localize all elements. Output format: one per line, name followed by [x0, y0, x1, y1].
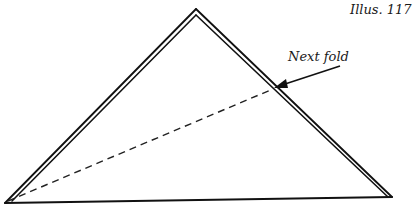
- folding-illustration: Illus. 117 Next fold: [0, 0, 414, 205]
- bottom-edge: [5, 197, 392, 203]
- right-edge-inner: [196, 15, 388, 197]
- illustration-caption: Illus. 117: [349, 2, 412, 17]
- left-edge-inner: [12, 15, 196, 201]
- fold-line-dashed: [8, 89, 273, 201]
- right-edge-outer: [196, 9, 392, 197]
- callout-arrow: [274, 66, 340, 88]
- next-fold-label: Next fold: [287, 49, 349, 64]
- arrow-head-icon: [274, 79, 288, 88]
- arrow-shaft: [282, 66, 340, 85]
- triangle-shape: [5, 9, 392, 203]
- left-edge-outer: [5, 9, 196, 203]
